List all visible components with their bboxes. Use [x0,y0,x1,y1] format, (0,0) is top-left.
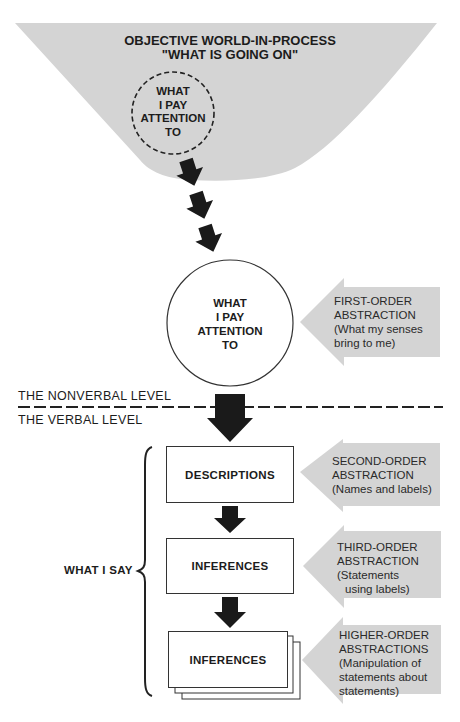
label-line: bring to me) [334,336,423,350]
world-title-line1: OBJECTIVE WORLD-IN-PROCESS [0,34,460,48]
higher-inferences-box: INFERENCES [168,631,288,688]
label-line: (Statements [337,568,419,582]
label-line: ABSTRACTIONS [339,642,429,656]
label-line: (Names and labels) [332,482,432,496]
label-line: statements) [339,684,429,698]
arrow-down-icon [214,597,246,628]
first-order-label: FIRST-ORDER ABSTRACTION (What my senses … [334,294,423,350]
world-title: OBJECTIVE WORLD-IN-PROCESS "WHAT IS GOIN… [0,34,460,62]
box-label: INFERENCES [189,654,266,666]
label-line: I PAY [133,99,213,113]
world-title-line2: "WHAT IS GOING ON" [0,48,460,62]
label-line: statements about [339,670,429,684]
nonverbal-level-label: THE NONVERBAL LEVEL [18,389,171,403]
label-line: THIRD-ORDER [337,540,419,554]
label-line: WHAT [180,296,280,310]
label-line: ABSTRACTION [332,468,432,482]
label-line: I PAY [180,310,280,324]
label-line: ABSTRACTION [334,308,423,322]
arrow-down-icon [214,506,246,533]
label-line: HIGHER-ORDER [339,628,429,642]
arrow-down-icon [192,222,227,256]
second-order-label: SECOND-ORDER ABSTRACTION (Names and labe… [332,454,432,496]
label-line: using labels) [337,582,419,596]
descriptions-box: DESCRIPTIONS [166,446,294,503]
label-line: ATTENTION [180,324,280,338]
diagram-graphics [0,0,460,722]
box-label: INFERENCES [191,560,268,572]
dashed-circle-label: WHAT I PAY ATTENTION TO [133,85,213,139]
arrow-down-icon [207,394,253,442]
what-i-say-label: WHAT I SAY [64,564,133,576]
label-line: FIRST-ORDER [334,294,423,308]
verbal-level-label: THE VERBAL LEVEL [18,413,143,427]
label-line: WHAT [133,85,213,99]
higher-order-label: HIGHER-ORDER ABSTRACTIONS (Manipulation … [339,628,429,698]
third-order-label: THIRD-ORDER ABSTRACTION (Statements usin… [337,540,419,596]
label-line: (Manipulation of [339,656,429,670]
attention-circle-label: WHAT I PAY ATTENTION TO [180,296,280,352]
box-label: DESCRIPTIONS [185,469,275,481]
inferences-box: INFERENCES [166,538,294,594]
label-line: TO [180,338,280,352]
what-i-say-brace [138,447,152,696]
label-line: TO [133,126,213,140]
label-line: (What my senses [334,322,423,336]
arrow-down-icon [183,189,218,223]
label-line: SECOND-ORDER [332,454,432,468]
label-line: ATTENTION [133,112,213,126]
label-line: ABSTRACTION [337,554,419,568]
